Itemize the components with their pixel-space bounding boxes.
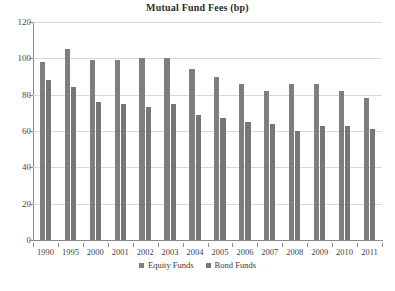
x-axis-tick-label: 2008: [286, 247, 303, 257]
bar-bond-funds: [46, 80, 51, 240]
bar-bond-funds: [345, 126, 350, 240]
bar-equity-funds: [40, 62, 45, 240]
gridline: [33, 240, 382, 241]
x-axis-tick-mark: [282, 243, 283, 247]
bar-group: [282, 22, 307, 240]
chart-title: Mutual Fund Fees (bp): [0, 2, 395, 13]
bar-equity-funds: [164, 58, 169, 240]
bar-group: [208, 22, 233, 240]
y-axis-tick-label: 0: [5, 236, 31, 245]
bar-equity-funds: [139, 58, 144, 240]
bar-equity-funds: [339, 91, 344, 240]
y-axis-tick-label: 60: [5, 127, 31, 136]
x-axis-tick-mark: [357, 243, 358, 247]
bar-bond-funds: [121, 104, 126, 240]
bar-bond-funds: [171, 104, 176, 240]
bar-group: [133, 22, 158, 240]
legend-entry: Equity Funds: [139, 260, 194, 270]
bar-bond-funds: [295, 131, 300, 240]
x-axis-tick-mark: [58, 243, 59, 247]
x-axis-tick-label: 2001: [112, 247, 129, 257]
x-axis-tick-label: 2004: [187, 247, 204, 257]
x-axis-tick-label: 2003: [162, 247, 179, 257]
bar-group: [357, 22, 382, 240]
x-axis-tick-mark: [183, 243, 184, 247]
y-axis-tick-label: 80: [5, 90, 31, 99]
y-axis-tick-label: 100: [5, 54, 31, 63]
bar-bond-funds: [370, 129, 375, 240]
x-axis-tick-label: 2007: [261, 247, 278, 257]
bar-group: [108, 22, 133, 240]
legend-entry: Bond Funds: [206, 260, 256, 270]
x-axis-tick-label: 2009: [311, 247, 328, 257]
plot-area: [33, 22, 382, 240]
bar-equity-funds: [364, 98, 369, 240]
bar-equity-funds: [314, 84, 319, 240]
bar-group: [183, 22, 208, 240]
x-axis-tick-mark: [108, 243, 109, 247]
chart-figure: Mutual Fund Fees (bp) 020406080100120 19…: [0, 0, 395, 291]
x-axis-tick-mark: [208, 243, 209, 247]
x-axis-tick-mark: [83, 243, 84, 247]
x-axis-tick-label: 2006: [236, 247, 253, 257]
x-axis: 1990199520002001200220032004200520062007…: [33, 243, 383, 259]
bar-group: [307, 22, 332, 240]
chart-legend: Equity FundsBond Funds: [0, 260, 395, 270]
x-axis-tick-mark: [133, 243, 134, 247]
x-axis-tick-label: 1990: [37, 247, 54, 257]
bar-equity-funds: [90, 60, 95, 240]
x-axis-tick-mark: [232, 243, 233, 247]
x-axis-tick-mark: [382, 243, 383, 247]
bar-group: [33, 22, 58, 240]
bar-group: [232, 22, 257, 240]
figure-caption: [120, 281, 280, 289]
bar-equity-funds: [115, 60, 120, 240]
bar-equity-funds: [189, 69, 194, 240]
x-axis-tick-mark: [257, 243, 258, 247]
y-axis-tick-label: 40: [5, 163, 31, 172]
bar-equity-funds: [65, 49, 70, 240]
bar-equity-funds: [239, 84, 244, 240]
bar-bond-funds: [220, 118, 225, 240]
bar-group: [58, 22, 83, 240]
y-axis-tick-label: 20: [5, 199, 31, 208]
bar-equity-funds: [264, 91, 269, 240]
bar-equity-funds: [214, 77, 219, 241]
x-axis-tick-label: 2000: [87, 247, 104, 257]
y-axis: 020406080100120: [0, 22, 31, 240]
x-axis-tick-label: 2005: [211, 247, 228, 257]
bar-group: [332, 22, 357, 240]
x-axis-tick-mark: [307, 243, 308, 247]
bar-bond-funds: [96, 102, 101, 240]
bar-group: [83, 22, 108, 240]
bar-group: [257, 22, 282, 240]
bar-bond-funds: [196, 115, 201, 240]
x-axis-tick-mark: [332, 243, 333, 247]
x-axis-tick-label: 2002: [137, 247, 154, 257]
x-axis-tick-label: 2011: [361, 247, 378, 257]
bar-bond-funds: [320, 126, 325, 240]
bar-bond-funds: [245, 122, 250, 240]
legend-label: Bond Funds: [215, 260, 256, 270]
bar-bond-funds: [146, 107, 151, 240]
bar-group: [158, 22, 183, 240]
legend-swatch-icon: [206, 263, 211, 268]
x-axis-tick-label: 2010: [336, 247, 353, 257]
bar-equity-funds: [289, 84, 294, 240]
x-axis-tick-label: 1995: [62, 247, 79, 257]
bar-bond-funds: [270, 124, 275, 240]
bar-bond-funds: [71, 87, 76, 240]
x-axis-tick-mark: [158, 243, 159, 247]
y-axis-tick-label: 120: [5, 18, 31, 27]
legend-swatch-icon: [139, 263, 144, 268]
legend-label: Equity Funds: [148, 260, 194, 270]
x-axis-tick-mark: [33, 243, 34, 247]
